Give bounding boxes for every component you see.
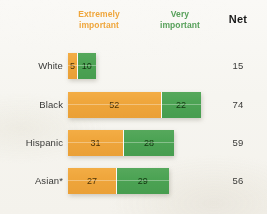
chart-row: Hispanic 31 28 59 xyxy=(0,130,267,156)
net-value: 59 xyxy=(214,130,262,156)
net-value: 74 xyxy=(214,92,262,118)
stacked-bar-chart: Extremely important Very important Net W… xyxy=(0,0,267,214)
net-value: 15 xyxy=(214,53,262,79)
row-label: Hispanic xyxy=(0,130,63,156)
bar-segment-extremely: 27 xyxy=(68,168,116,194)
bar-segment-very: 10 xyxy=(77,53,96,79)
stacked-bar: 5 10 xyxy=(68,53,96,79)
bar-segment-very: 28 xyxy=(123,130,174,156)
bar-segment-very: 29 xyxy=(116,168,169,194)
row-label: Asian* xyxy=(0,168,63,194)
stacked-bar: 31 28 xyxy=(68,130,174,156)
chart-row: Black 52 22 74 xyxy=(0,92,267,118)
bar-segment-extremely: 31 xyxy=(68,130,123,156)
stacked-bar: 27 29 xyxy=(68,168,169,194)
legend-very-important: Very important xyxy=(150,9,210,30)
bar-segment-very: 22 xyxy=(161,92,201,118)
row-label: White xyxy=(0,53,63,79)
bar-segment-extremely: 52 xyxy=(68,92,161,118)
row-label: Black xyxy=(0,92,63,118)
column-header-net: Net xyxy=(214,14,262,25)
net-value: 56 xyxy=(214,168,262,194)
legend-extremely-important: Extremely important xyxy=(62,9,136,30)
chart-row: Asian* 27 29 56 xyxy=(0,168,267,194)
chart-row: White 5 10 15 xyxy=(0,53,267,79)
stacked-bar: 52 22 xyxy=(68,92,201,118)
bar-segment-extremely: 5 xyxy=(68,53,77,79)
